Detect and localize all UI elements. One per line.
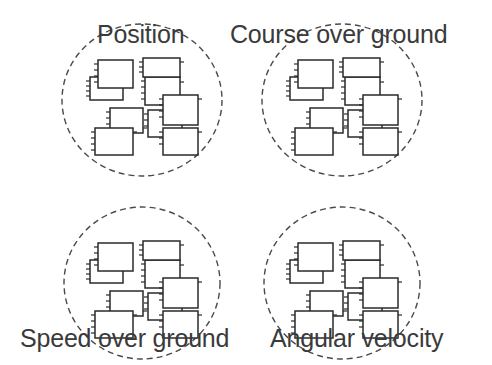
block-cluster [86, 58, 202, 155]
label-course-over-ground: Course over ground [230, 22, 447, 47]
block-cluster [286, 58, 402, 155]
label-speed-over-ground: Speed over ground [20, 326, 229, 351]
label-angular-velocity: Angular velocity [270, 326, 443, 351]
label-position: Position [97, 22, 184, 47]
